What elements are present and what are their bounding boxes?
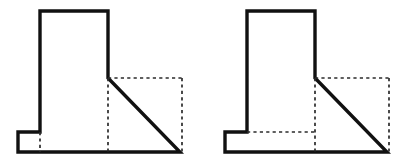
left-figure-panel — [0, 0, 207, 164]
right-solid-outline — [225, 11, 387, 152]
left-figure-svg — [0, 0, 207, 164]
figure-pair-container — [0, 0, 414, 164]
left-solid-outline — [18, 11, 180, 152]
right-figure-svg — [207, 0, 414, 164]
right-figure-panel — [207, 0, 414, 164]
